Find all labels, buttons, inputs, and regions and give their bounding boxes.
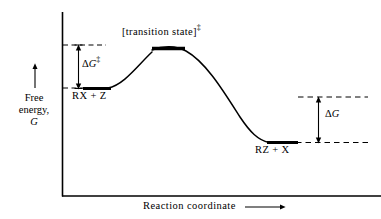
- product-state-label: RZ + X: [255, 144, 290, 156]
- guide-lines: [63, 45, 368, 143]
- double-dagger-icon: ‡: [96, 55, 100, 64]
- state-plateaus: [83, 49, 298, 143]
- reactant-state-label: RX + Z: [72, 90, 107, 102]
- y-axis-label-symbol: G: [8, 116, 60, 128]
- reaction-coordinate-figure: [transition state]‡ RX + Z RZ + X ΔG‡ ΔG…: [0, 0, 381, 219]
- y-axis-label-line2: energy,: [8, 104, 60, 116]
- y-axis-label-line1: Free: [8, 92, 60, 104]
- curve-descending-segment: [152, 47, 269, 143]
- delta-g-arrow: [316, 97, 321, 144]
- double-dagger-icon: ‡: [197, 23, 201, 32]
- delta-g-label: ΔG: [325, 108, 339, 120]
- curve-ascending-segment: [108, 52, 152, 88]
- y-axis-label: Free energy, G: [8, 92, 60, 127]
- axis-lines: [62, 12, 381, 197]
- x-axis-label: Reaction coordinate: [143, 200, 236, 212]
- g-symbol: G: [332, 108, 340, 119]
- delta-symbol: Δ: [82, 58, 89, 69]
- energy-curve: [108, 47, 269, 143]
- delta-g-activation-label: ΔG‡: [82, 56, 100, 69]
- transition-state-label: [transition state]‡: [122, 24, 201, 37]
- transition-state-text: [transition state]: [122, 26, 197, 37]
- delta-symbol: Δ: [325, 108, 332, 119]
